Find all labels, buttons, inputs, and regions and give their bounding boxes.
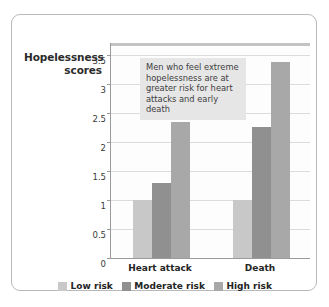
- y-axis-tick-mark: [107, 55, 111, 56]
- x-axis-category-labels: Heart attackDeath: [110, 263, 310, 277]
- y-axis-tick-labels: 00.511.522.533.5: [84, 43, 106, 259]
- legend-item[interactable]: Moderate risk: [122, 281, 205, 291]
- legend-swatch: [214, 282, 223, 291]
- legend-item[interactable]: High risk: [214, 281, 272, 291]
- y-axis-tick-mark: [107, 229, 111, 230]
- annotation-callout: Men who feel extreme hopelessness are at…: [140, 58, 246, 120]
- y-axis-tick-mark: [107, 171, 111, 172]
- y-axis-tick-mark: [107, 142, 111, 143]
- y-axis-tick-mark: [107, 113, 111, 114]
- legend-label: Moderate risk: [134, 281, 205, 291]
- chart-card: Hopelessness scores 00.511.522.533.5 Men…: [11, 14, 317, 291]
- legend-label: High risk: [226, 281, 271, 291]
- bar: [271, 62, 290, 258]
- legend-swatch: [58, 282, 67, 291]
- bar: [171, 122, 190, 258]
- legend-swatch: [122, 282, 131, 291]
- chart-legend: Low riskModerate riskHigh risk: [12, 281, 318, 291]
- x-axis-category-label: Heart attack: [128, 263, 192, 273]
- plot-area-wrapper: 00.511.522.533.5 Men who feel extreme ho…: [110, 43, 310, 259]
- legend-label: Low risk: [71, 281, 113, 291]
- legend-item[interactable]: Low risk: [58, 281, 113, 291]
- bar: [133, 200, 152, 258]
- bar: [233, 200, 252, 258]
- bar: [252, 127, 271, 258]
- y-axis-tick-mark: [107, 84, 111, 85]
- y-axis-tick-mark: [107, 258, 111, 259]
- bar: [152, 183, 171, 258]
- y-axis-tick-mark: [107, 200, 111, 201]
- x-axis-baseline: [111, 258, 310, 259]
- x-axis-category-label: Death: [245, 263, 275, 273]
